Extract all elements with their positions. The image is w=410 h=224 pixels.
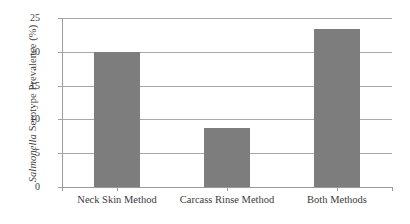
x-tick-mark <box>227 187 228 191</box>
y-tick-mark <box>58 119 62 120</box>
y-tick-label: 15 <box>14 81 40 91</box>
y-tick-label: 10 <box>14 114 40 124</box>
x-tick-mark <box>337 187 338 191</box>
bar[interactable] <box>204 128 250 187</box>
y-tick-label: 0 <box>14 182 40 192</box>
y-tick-label: 20 <box>14 47 40 57</box>
y-tick-mark <box>58 52 62 53</box>
y-axis-title-italic: Salmonella <box>27 134 38 182</box>
y-tick-mark <box>58 153 62 154</box>
y-tick-mark <box>58 18 62 19</box>
x-axis-label: Carcass Rinse Method <box>180 194 275 205</box>
y-tick-label: 5 <box>14 148 40 158</box>
y-tick-label: 25 <box>14 13 40 23</box>
plot-area: 0510152025 <box>62 18 392 187</box>
x-tick-mark <box>117 187 118 191</box>
bar[interactable] <box>94 52 140 187</box>
x-axis-end-tick <box>62 187 63 191</box>
y-tick-mark <box>58 86 62 87</box>
y-axis-title: Salmonella Serotype Prevalence (%) <box>27 9 38 199</box>
gridline <box>62 18 392 19</box>
bar[interactable] <box>314 29 360 187</box>
x-axis-end-tick <box>392 187 393 191</box>
x-axis-label: Both Methods <box>307 194 367 205</box>
bar-chart: Salmonella Serotype Prevalence (%) 05101… <box>0 0 410 224</box>
x-axis-label: Neck Skin Method <box>77 194 156 205</box>
